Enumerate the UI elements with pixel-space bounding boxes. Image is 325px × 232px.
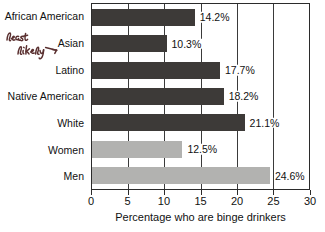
bar-latino: 17.7% — [92, 62, 220, 79]
bar-native-american: 18.2% — [92, 88, 224, 105]
y-axis-label-text: White — [57, 118, 84, 129]
bar-row-white: 21.1% — [92, 110, 309, 136]
bar-row-latino: 17.7% — [92, 57, 309, 83]
bar-value-label: 21.1% — [249, 118, 281, 129]
bar-value-label: 10.3% — [171, 38, 203, 49]
bar-value-label: 12.5% — [186, 144, 218, 155]
y-axis-label-african-american: African American — [0, 3, 88, 30]
bar-row-african-american: 14.2% — [92, 4, 309, 30]
bar-value-label: 17.7% — [224, 65, 256, 76]
x-tick-label-20: 20 — [231, 196, 243, 207]
y-axis-label-text: Men — [64, 171, 84, 182]
y-axis-label-latino: Latino — [0, 56, 88, 83]
y-axis-category-labels: African American Asian Latino Native Ame… — [0, 3, 88, 190]
x-tick-label-30: 30 — [304, 196, 316, 207]
bar-row-asian: 10.3% — [92, 30, 309, 56]
x-tick-label-10: 10 — [158, 196, 170, 207]
x-tick-label-5: 5 — [124, 196, 130, 207]
y-axis-label-text: Native American — [8, 91, 84, 102]
y-axis-label-men: Men — [0, 163, 88, 190]
bar-row-women: 12.5% — [92, 136, 309, 162]
bar-rows: 14.2% 10.3% 17.7% 18.2% 21.1% — [92, 4, 309, 189]
bar-value-label: 24.6% — [274, 170, 306, 181]
y-axis-label-text: African American — [5, 11, 84, 22]
bar-women: 12.5% — [92, 141, 182, 158]
y-axis-label-text: Women — [48, 145, 84, 156]
x-axis-title: Percentage who are binge drinkers — [91, 212, 310, 223]
bar-men: 24.6% — [92, 167, 270, 184]
bar-african-american: 14.2% — [92, 9, 195, 26]
binge-drinking-bar-chart: African American Asian Latino Native Ame… — [0, 0, 325, 232]
bar-value-label: 14.2% — [199, 12, 231, 23]
y-axis-label-women: Women — [0, 137, 88, 164]
y-axis-label-asian: Asian — [0, 30, 88, 57]
y-axis-label-white: White — [0, 110, 88, 137]
y-axis-label-text: Latino — [55, 65, 84, 76]
bar-row-men: 24.6% — [92, 163, 309, 189]
x-tick-label-25: 25 — [267, 196, 279, 207]
x-axis-tick-labels: 0 5 10 15 20 25 30 — [91, 196, 310, 210]
y-axis-label-native-american: Native American — [0, 83, 88, 110]
bar-value-label: 18.2% — [228, 91, 260, 102]
x-tick-label-0: 0 — [88, 196, 94, 207]
y-axis-label-text: Asian — [58, 38, 84, 49]
bar-row-native-american: 18.2% — [92, 83, 309, 109]
bar-white: 21.1% — [92, 114, 245, 131]
bar-asian: 10.3% — [92, 35, 167, 52]
plot-area: 14.2% 10.3% 17.7% 18.2% 21.1% — [91, 3, 310, 190]
x-tick-label-15: 15 — [194, 196, 206, 207]
